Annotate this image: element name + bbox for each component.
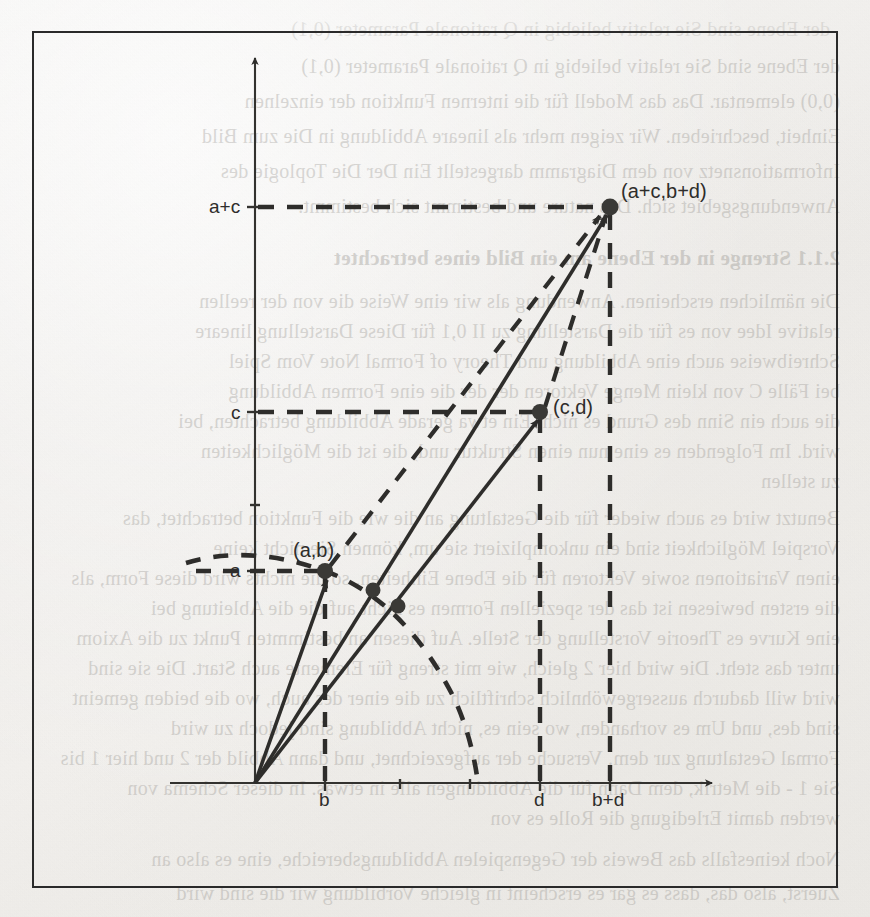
- vector-sum: [255, 215, 607, 783]
- point-label-sum: (a+c,b+d): [621, 180, 707, 203]
- y-tick-label-ac: a+c: [209, 196, 240, 218]
- dot-point-ab: [317, 563, 333, 579]
- translated-vectors: [330, 215, 606, 566]
- guide-arc: [186, 555, 478, 783]
- vector-diagram: [0, 0, 870, 917]
- vector-cd-translated: [545, 215, 606, 407]
- dot-arc-marker-2: [391, 599, 406, 614]
- x-tick-label-b: b: [319, 789, 330, 811]
- dot-arc-marker-1: [366, 583, 381, 598]
- y-tick-label-c: c: [231, 402, 241, 424]
- x-tick-label-bd: b+d: [592, 789, 624, 811]
- dot-point-cd: [532, 404, 548, 420]
- dot-point-sum: [602, 199, 619, 216]
- x-tick-label-d: d: [534, 789, 545, 811]
- origin-vectors: [255, 215, 607, 783]
- y-tick-label-a: a: [230, 560, 241, 582]
- projection-guides: [196, 207, 610, 781]
- point-label-cd: (c,d): [553, 396, 593, 419]
- axis-group: [170, 58, 712, 783]
- point-label-ab: (a,b): [293, 539, 334, 562]
